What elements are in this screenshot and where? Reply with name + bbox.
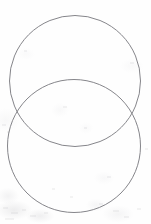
- image-canvas: [0, 0, 151, 224]
- lower-circle: [8, 80, 141, 213]
- upper-circle: [10, 16, 141, 147]
- overlapping-circles-figure: [0, 0, 151, 224]
